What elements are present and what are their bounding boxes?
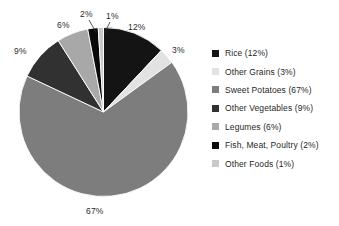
legend-label-sweet-potatoes: Sweet Potatoes (67%) — [225, 85, 312, 95]
legend-swatch-rice — [212, 50, 219, 57]
legend-label-legumes: Legumes (6%) — [225, 122, 281, 132]
slice-label-fish-meat-poultry: 2% — [80, 9, 93, 19]
slice-label-legumes: 6% — [57, 20, 70, 30]
legend-item-other-foods[interactable]: Other Foods (1%) — [212, 154, 339, 172]
legend-swatch-legumes — [212, 123, 219, 130]
legend-label-other-grains: Other Grains (3%) — [225, 67, 296, 77]
slice-label-sweet-potatoes: 67% — [86, 206, 104, 216]
legend-swatch-other-vegetables — [212, 105, 219, 112]
pie-chart-figure: 12% 3% 67% 9% 6% 2% 1% Rice (12%)Other G… — [0, 0, 339, 226]
legend-item-sweet-potatoes[interactable]: Sweet Potatoes (67%) — [212, 81, 339, 99]
legend-swatch-other-foods — [212, 160, 219, 167]
legend-swatch-sweet-potatoes — [212, 86, 219, 93]
legend-label-rice: Rice (12%) — [225, 48, 268, 58]
slice-label-other-foods: 1% — [106, 11, 119, 21]
legend-swatch-other-grains — [212, 68, 219, 75]
slice-label-other-grains: 3% — [172, 45, 185, 55]
legend-label-other-foods: Other Foods (1%) — [225, 159, 294, 169]
pie-slices-group — [19, 28, 188, 197]
chart-legend: Rice (12%)Other Grains (3%)Sweet Potatoe… — [212, 44, 339, 173]
legend-label-other-vegetables: Other Vegetables (9%) — [225, 103, 313, 113]
slice-label-rice: 12% — [128, 22, 146, 32]
legend-item-fish-meat-poultry[interactable]: Fish, Meat, Poultry (2%) — [212, 136, 339, 154]
pie-svg — [0, 0, 205, 226]
legend-item-legumes[interactable]: Legumes (6%) — [212, 118, 339, 136]
legend-item-other-vegetables[interactable]: Other Vegetables (9%) — [212, 99, 339, 117]
pie-plot-area: 12% 3% 67% 9% 6% 2% 1% — [0, 0, 205, 226]
legend-swatch-fish-meat-poultry — [212, 142, 219, 149]
legend-item-other-grains[interactable]: Other Grains (3%) — [212, 62, 339, 80]
legend-item-rice[interactable]: Rice (12%) — [212, 44, 339, 62]
slice-label-other-vegetables: 9% — [14, 46, 27, 56]
legend-label-fish-meat-poultry: Fish, Meat, Poultry (2%) — [225, 140, 319, 150]
